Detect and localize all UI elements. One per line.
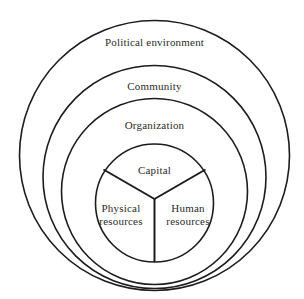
nested-circles-diagram: Political environment Community Organiza…	[0, 0, 304, 299]
sector-label-capital: Capital	[112, 164, 197, 177]
ring-label-community: Community	[72, 80, 237, 93]
sector-label-human-resources: Human resources	[157, 202, 219, 227]
ring-label-organization: Organization	[72, 119, 237, 132]
sector-label-physical-resources: Physical resources	[90, 202, 152, 227]
ring-label-political-environment: Political environment	[52, 36, 257, 49]
